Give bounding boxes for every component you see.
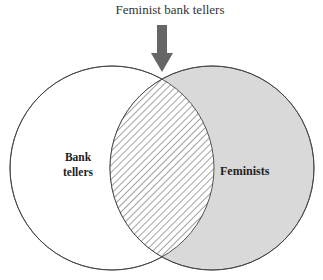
bank-tellers-label: Bank tellers: [52, 150, 104, 180]
feminists-label: Feminists: [220, 164, 269, 179]
down-arrow-icon: [151, 25, 173, 72]
bank-tellers-label-line1: Bank: [52, 150, 104, 165]
bank-tellers-label-line2: tellers: [52, 165, 104, 180]
venn-diagram: [0, 0, 323, 280]
diagram-title: Feminist bank tellers: [0, 2, 323, 18]
